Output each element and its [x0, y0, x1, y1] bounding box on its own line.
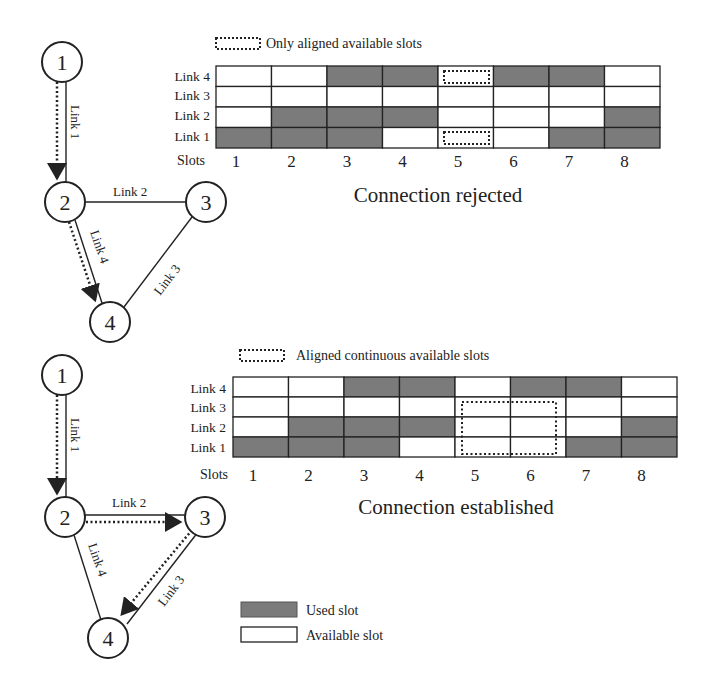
- node-3: 3: [186, 182, 226, 222]
- slot-number: 6: [526, 466, 535, 485]
- bottom-legend-label: Aligned continuous available slots: [296, 348, 489, 363]
- top-topology: 1 2 3 4 Link 1 Link 2 Link 3 Link 4: [42, 42, 226, 342]
- used-slot-cell: [344, 417, 400, 437]
- slot-number: 6: [509, 152, 518, 171]
- available-slot-cell: [622, 397, 678, 417]
- available-slot-cell: [272, 66, 328, 87]
- dotted-legend-swatch: [240, 350, 284, 361]
- used-slot-cell: [327, 128, 383, 149]
- available-slot-cell: [605, 66, 661, 87]
- used-slot-cell: [383, 107, 439, 128]
- available-slot-cell: [549, 87, 605, 108]
- available-slot-cell: [494, 128, 550, 149]
- svg-text:Link 1: Link 1: [174, 129, 210, 144]
- node-2: 2: [45, 497, 85, 537]
- slot-number: 7: [565, 152, 574, 171]
- node-1: 1: [42, 355, 82, 395]
- available-slot-cell: [438, 107, 494, 128]
- svg-text:Link 3: Link 3: [174, 88, 210, 103]
- svg-text:2: 2: [60, 190, 71, 215]
- link-2-label: Link 2: [112, 495, 146, 510]
- used-slot-cell: [400, 417, 456, 437]
- available-slot-cell: [511, 417, 567, 437]
- used-slot-cell: [216, 128, 272, 149]
- used-slot-cell: [566, 377, 622, 397]
- available-slot-cell: [455, 397, 511, 417]
- svg-text:Link 1: Link 1: [190, 440, 226, 455]
- top-caption: Connection rejected: [354, 183, 523, 207]
- top-slot-numbers: 12345678: [232, 152, 629, 171]
- used-slot-cell: [605, 107, 661, 128]
- link-3-label: Link 3: [151, 262, 184, 298]
- node-4: 4: [88, 618, 128, 658]
- available-slot-cell: [494, 107, 550, 128]
- slot-number: 5: [454, 152, 463, 171]
- top-legend-label: Only aligned available slots: [266, 36, 422, 51]
- used-slot-cell: [622, 437, 678, 457]
- available-slot-cell: [438, 87, 494, 108]
- available-slot-cell: [344, 397, 400, 417]
- slot-number: 2: [287, 152, 296, 171]
- slot-number: 1: [249, 466, 258, 485]
- used-slot-cell: [549, 128, 605, 149]
- available-slot-cell: [327, 87, 383, 108]
- available-slot-cell: [272, 87, 328, 108]
- available-slot-cell: [511, 397, 567, 417]
- used-slot-cell: [383, 66, 439, 87]
- link-3-line: [127, 532, 198, 624]
- used-slot-cell: [272, 128, 328, 149]
- top-row-labels: Link 4 Link 3 Link 2 Link 1: [174, 69, 210, 144]
- slot-number: 4: [415, 466, 424, 485]
- dotted-legend-swatch: [216, 38, 260, 49]
- available-slot-cell: [216, 66, 272, 87]
- available-slot-cell: [233, 377, 289, 397]
- figure: 1 2 3 4 Link 1 Link 2 Link 3 Link 4 Only…: [0, 0, 717, 694]
- used-slot-swatch: [241, 602, 297, 617]
- bottom-slots-label: Slots: [200, 467, 228, 482]
- node-1: 1: [42, 42, 82, 82]
- available-slot-cell: [549, 107, 605, 128]
- node-3: 3: [185, 497, 225, 537]
- svg-text:Link 4: Link 4: [174, 69, 210, 84]
- used-slot-cell: [327, 107, 383, 128]
- used-slot-cell: [327, 66, 383, 87]
- used-slot-cell: [605, 128, 661, 149]
- svg-text:2: 2: [60, 505, 71, 530]
- available-slot-cell: [216, 87, 272, 108]
- available-slot-cell: [455, 377, 511, 397]
- used-slot-cell: [289, 437, 345, 457]
- used-slot-cell: [566, 437, 622, 457]
- node-4: 4: [90, 302, 130, 342]
- node-2: 2: [45, 182, 85, 222]
- used-slot-cell: [289, 417, 345, 437]
- available-slot-cell: [566, 417, 622, 437]
- slot-number: 5: [471, 466, 480, 485]
- available-slot-cell: [622, 377, 678, 397]
- used-slot-cell: [272, 107, 328, 128]
- used-slot-cell: [344, 437, 400, 457]
- svg-text:4: 4: [103, 626, 114, 651]
- used-slot-cell: [622, 417, 678, 437]
- used-slot-cell: [233, 437, 289, 457]
- available-slot-cell: [400, 437, 456, 457]
- slot-number: 7: [582, 466, 591, 485]
- svg-text:3: 3: [200, 505, 211, 530]
- top-slot-grid: [216, 66, 660, 148]
- svg-text:4: 4: [105, 310, 116, 335]
- slot-number: 4: [398, 152, 407, 171]
- svg-text:1: 1: [57, 50, 68, 75]
- bottom-caption: Connection established: [358, 495, 554, 519]
- slot-number: 3: [343, 152, 352, 171]
- slot-number: 1: [232, 152, 241, 171]
- link-2-label: Link 2: [113, 184, 147, 199]
- slot-number: 3: [360, 466, 369, 485]
- used-slot-cell: [400, 377, 456, 397]
- svg-text:1: 1: [57, 363, 68, 388]
- bottom-slot-grid: [233, 377, 677, 457]
- available-slot-cell: [289, 397, 345, 417]
- available-slot-cell: [216, 107, 272, 128]
- link-4-label: Link 4: [87, 228, 113, 266]
- available-slot-cell: [383, 128, 439, 149]
- available-slot-cell: [566, 397, 622, 417]
- available-slot-label: Available slot: [306, 628, 383, 643]
